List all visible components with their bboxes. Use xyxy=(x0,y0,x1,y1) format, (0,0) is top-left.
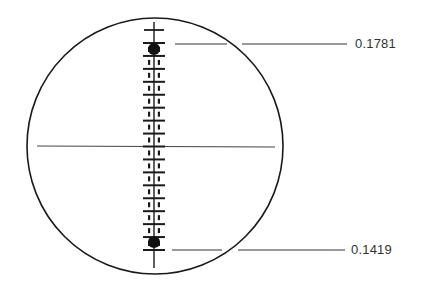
bottom-reading-label: 0.1419 xyxy=(351,242,392,257)
top-marker-dot xyxy=(148,43,160,55)
top-reading-label: 0.1781 xyxy=(355,36,396,51)
bottom-marker-dot xyxy=(148,236,160,248)
